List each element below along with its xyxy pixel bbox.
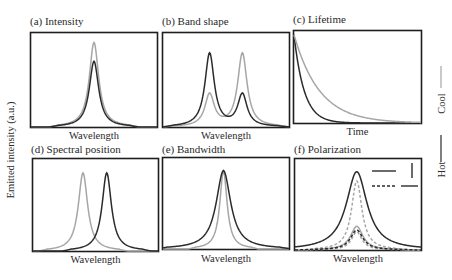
panel-e-frame xyxy=(163,158,290,250)
panel-e-curve-cool xyxy=(163,171,289,249)
panel-b-frame xyxy=(163,33,290,128)
panel-a-frame xyxy=(31,33,158,128)
panel-a-curve-hot xyxy=(31,61,157,127)
figure-canvas xyxy=(0,0,452,280)
panel-a-curve-cool xyxy=(31,42,157,127)
panel-b-curve-hot xyxy=(163,53,289,127)
panel-d-curve-cool xyxy=(33,173,158,251)
panel-f-curve-1 xyxy=(295,181,421,250)
panel-c-curve-hot xyxy=(294,35,421,123)
panel-f-curve-3 xyxy=(295,232,421,250)
chart-curves xyxy=(31,35,421,251)
polarization-legend xyxy=(372,163,418,186)
